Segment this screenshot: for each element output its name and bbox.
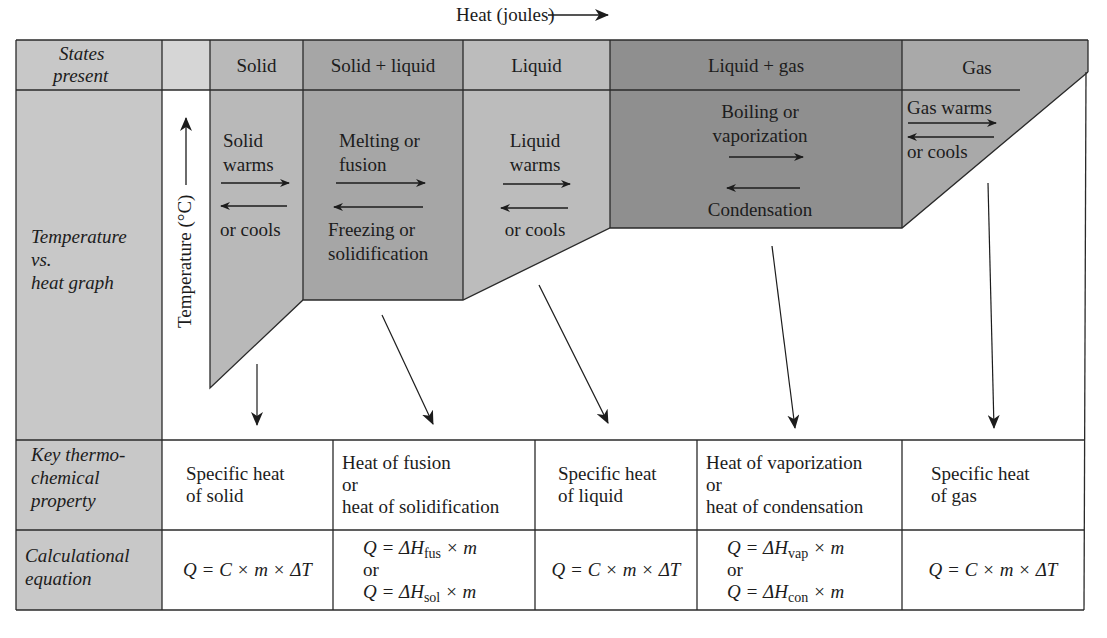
property-gas-line2: of gas: [931, 485, 1084, 507]
solid-annotation-line1: Solid: [223, 130, 263, 152]
liquid-gas-annotation-line2: vaporization: [690, 125, 830, 147]
row-label-equation-line1: Calculational: [25, 545, 130, 567]
state-header-liquid-gas: Liquid + gas: [610, 55, 902, 77]
solid-annotation-line2: warms: [223, 154, 274, 176]
row-label-property-line2: chemical: [31, 467, 100, 489]
equation-vaporization: Q = ΔHvap × m: [727, 537, 902, 559]
equation-vaporization-or: or: [727, 559, 902, 581]
liquid-annotation-line1: Liquid: [495, 130, 575, 152]
row-label-graph-line2: vs.: [31, 249, 52, 271]
property-cell-gas: Specific heat of gas: [902, 440, 1084, 530]
row-label-graph-line3: heat graph: [31, 272, 114, 294]
gas-annotation-line2: or cools: [907, 141, 968, 163]
property-solid-line1: Specific heat: [186, 463, 333, 485]
equation-cell-solid-liquid: Q = ΔHfus × m or Q = ΔHsol × m: [333, 530, 535, 610]
equation-solidification: Q = ΔHsol × m: [363, 581, 535, 603]
solid-liquid-annotation-line4: solidification: [328, 243, 428, 265]
equation-gas: Q = C × m × ΔT: [929, 559, 1058, 581]
liquid-gas-annotation-line1: Boiling or: [690, 101, 830, 123]
liquid-pointer-arrow: [539, 285, 608, 423]
row-label-equation-line2: equation: [25, 568, 92, 590]
equation-cell-liquid-gas: Q = ΔHvap × m or Q = ΔHcon × m: [697, 530, 902, 610]
heat-axis-label: Heat (joules): [456, 4, 546, 26]
solid-annotation-line3: or cools: [220, 219, 281, 241]
state-header-solid: Solid: [210, 55, 303, 77]
property-cell-liquid-gas: Heat of vaporization or heat of condensa…: [697, 440, 902, 530]
liquid-annotation-line2: warms: [495, 154, 575, 176]
gas-pointer-arrow: [988, 183, 994, 428]
property-liquid-gas-line3: heat of condensation: [706, 496, 902, 518]
solid-liquid-pointer-arrow: [382, 315, 433, 424]
row-label-graph-line1: Temperature: [31, 226, 127, 248]
row-label-property-line1: Key thermo-: [31, 444, 125, 466]
equation-fusion-or: or: [363, 559, 535, 581]
property-liquid-line2: of liquid: [558, 485, 697, 507]
state-header-solid-liquid: Solid + liquid: [303, 55, 463, 77]
equation-cell-liquid: Q = C × m × ΔT: [535, 530, 697, 610]
liquid-gas-pointer-arrow: [772, 246, 795, 428]
equation-liquid: Q = C × m × ΔT: [552, 559, 681, 581]
solid-liquid-annotation-line2: fusion: [339, 154, 387, 176]
property-solid-liquid-line2: or: [342, 474, 535, 496]
property-solid-line2: of solid: [186, 485, 333, 507]
row-label-states-line1: States: [59, 43, 104, 65]
equation-cell-gas: Q = C × m × ΔT: [902, 530, 1084, 610]
equation-cell-solid: Q = C × m × ΔT: [162, 530, 333, 610]
temperature-axis-label: Temperature (°C): [174, 195, 196, 328]
state-header-gas: Gas: [902, 57, 1052, 79]
property-liquid-gas-line2: or: [706, 474, 902, 496]
property-cell-solid: Specific heat of solid: [162, 440, 333, 530]
row-label-states-line2: present: [53, 65, 108, 87]
property-solid-liquid-line1: Heat of fusion: [342, 452, 535, 474]
row-label-column: [16, 40, 162, 610]
row-label-property-line3: property: [31, 490, 96, 512]
liquid-gas-annotation-line3: Condensation: [680, 199, 840, 221]
solid-region: [210, 40, 303, 388]
blank-header-cell: [162, 40, 210, 90]
property-cell-solid-liquid: Heat of fusion or heat of solidification: [333, 440, 535, 530]
property-liquid-gas-line1: Heat of vaporization: [706, 452, 902, 474]
property-liquid-line1: Specific heat: [558, 463, 697, 485]
state-header-liquid: Liquid: [463, 55, 610, 77]
solid-liquid-annotation-line1: Melting or: [339, 130, 420, 152]
equation-condensation: Q = ΔHcon × m: [727, 581, 902, 603]
solid-liquid-annotation-line3: Freezing or: [328, 219, 415, 241]
equation-fusion: Q = ΔHfus × m: [363, 537, 535, 559]
liquid-annotation-line3: or cools: [495, 219, 575, 241]
gas-annotation-line1: Gas warms: [907, 97, 992, 119]
property-gas-line1: Specific heat: [931, 463, 1084, 485]
property-solid-liquid-line3: heat of solidification: [342, 496, 535, 518]
property-cell-liquid: Specific heat of liquid: [535, 440, 697, 530]
equation-solid: Q = C × m × ΔT: [183, 559, 312, 581]
